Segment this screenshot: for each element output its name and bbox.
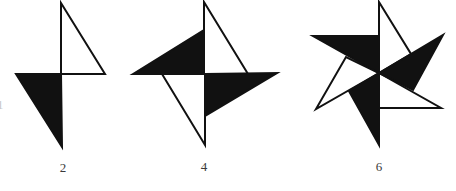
black-triangle (205, 73, 277, 116)
figure-label-2: 2 (60, 161, 67, 174)
white-triangle (162, 74, 205, 145)
pinwheel-figures (0, 0, 456, 191)
pinwheel-diagram: 1 2 4 6 (0, 0, 456, 191)
white-triangle (204, 2, 248, 74)
black-triangle (379, 35, 443, 90)
pinwheel-4 (133, 2, 277, 145)
black-triangle (16, 74, 62, 147)
figure-label-4: 4 (201, 160, 208, 173)
pinwheel-2 (16, 3, 105, 147)
white-triangle (61, 3, 105, 74)
figure-label-6: 6 (376, 160, 383, 173)
pinwheel-6 (313, 2, 443, 145)
black-triangle (133, 30, 204, 74)
black-triangle (349, 73, 379, 145)
